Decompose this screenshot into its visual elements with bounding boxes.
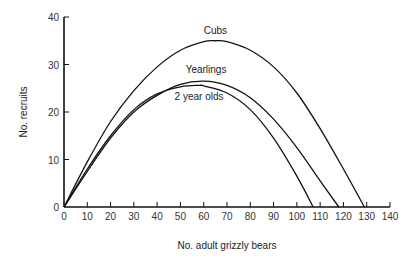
labels: CubsYearlings2 year olds [175, 25, 227, 103]
y-axis-label: No. recruits [18, 86, 29, 137]
y-tick-label: 40 [48, 12, 60, 23]
x-tick-label: 120 [335, 211, 352, 222]
x-tick-label: 30 [128, 211, 140, 222]
axes: 0102030405060708090100110120130140010203… [18, 12, 399, 251]
x-tick-label: 80 [245, 211, 257, 222]
y-tick-label: 10 [48, 155, 60, 166]
curve-2-year-olds [64, 85, 313, 207]
x-tick-label: 10 [82, 211, 94, 222]
x-tick-label: 20 [105, 211, 117, 222]
x-tick-label: 100 [289, 211, 306, 222]
x-tick-label: 110 [312, 211, 328, 222]
x-axis-label: No. adult grizzly bears [178, 240, 277, 251]
x-tick-label: 60 [198, 211, 210, 222]
chart: 0102030405060708090100110120130140010203… [0, 0, 418, 266]
y-tick-label: 0 [53, 202, 59, 213]
y-tick-label: 30 [48, 60, 60, 71]
x-tick-label: 70 [221, 211, 233, 222]
x-tick-label: 140 [382, 211, 399, 222]
x-tick-label: 130 [358, 211, 375, 222]
y-tick-label: 20 [48, 107, 60, 118]
curve-label-cubs: Cubs [204, 25, 227, 36]
x-tick-label: 0 [61, 211, 67, 222]
curve-label-yearlings: Yearlings [186, 64, 227, 75]
x-tick-label: 50 [175, 211, 187, 222]
x-tick-label: 40 [152, 211, 164, 222]
curve-label-2-year-olds: 2 year olds [175, 91, 224, 102]
x-tick-label: 90 [268, 211, 280, 222]
